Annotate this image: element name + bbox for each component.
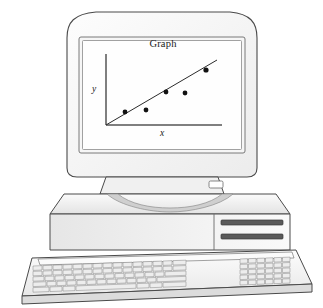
chart-y-axis-label: y	[92, 84, 96, 94]
chart-title: Graph	[133, 38, 193, 49]
keyboard[interactable]	[22, 250, 312, 304]
chart-data-point	[203, 67, 208, 72]
case-front-face	[50, 214, 290, 250]
keyboard-main-keys[interactable]	[33, 260, 186, 292]
chart-x-axis-label: x	[160, 128, 164, 138]
power-indicator[interactable]	[209, 181, 223, 188]
drive-bay-slot[interactable]	[221, 234, 283, 239]
drive-bay-slot[interactable]	[221, 220, 283, 225]
chart-data-point	[123, 110, 128, 115]
monitor-neck	[100, 177, 224, 194]
desktop-case	[50, 194, 290, 250]
computer-illustration: Graph y x	[0, 0, 323, 308]
chart-data-point	[164, 90, 169, 95]
chart-data-point	[183, 91, 188, 96]
chart-data-point	[144, 108, 149, 113]
